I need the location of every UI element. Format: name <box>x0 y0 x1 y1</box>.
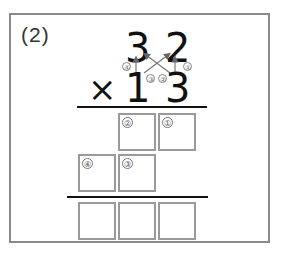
product-line-bottom <box>67 196 208 198</box>
answer-box-row2-tens[interactable]: ③ <box>118 154 156 192</box>
final-answer-box-hundreds[interactable] <box>78 202 116 240</box>
final-answer-box-tens[interactable] <box>118 202 156 240</box>
multiplier-tens-digit: 1 <box>125 68 150 108</box>
box-marker: ③ <box>122 158 133 169</box>
answer-box-row1-tens[interactable]: ② <box>118 113 156 151</box>
product-line-top <box>77 106 207 108</box>
answer-box-row1-ones[interactable]: ① <box>158 113 196 151</box>
box-marker: ④ <box>82 158 93 169</box>
box-marker: ① <box>162 117 173 128</box>
final-answer-box-ones[interactable] <box>158 202 196 240</box>
answer-box-row2-hundreds[interactable]: ④ <box>78 154 116 192</box>
box-marker: ② <box>122 117 133 128</box>
multiply-sign: × <box>88 72 117 106</box>
multiplier-ones-digit: 3 <box>165 68 190 108</box>
